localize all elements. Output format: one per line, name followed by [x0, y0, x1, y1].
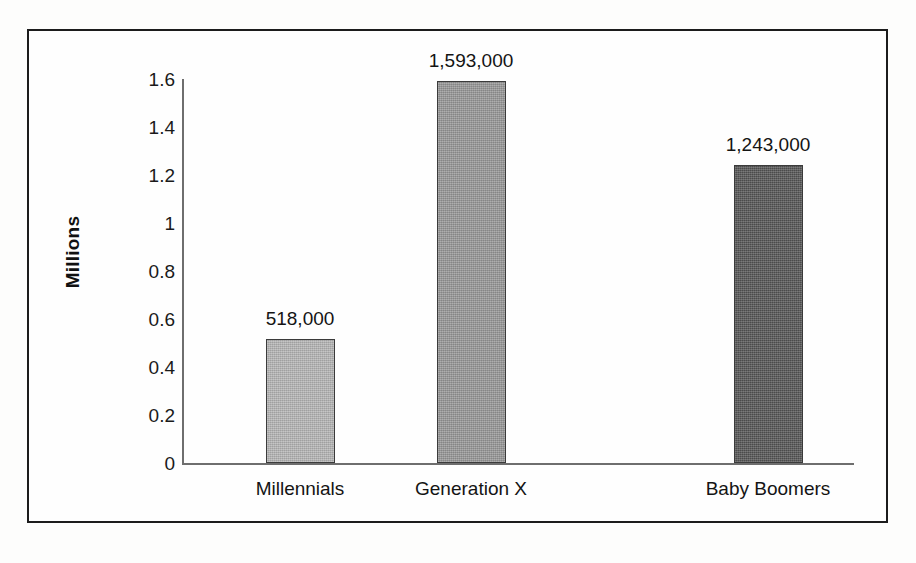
y-tick-label: 0.4: [55, 358, 175, 377]
bar-fill: [438, 82, 505, 462]
bar-generation-x: [437, 81, 506, 463]
y-tick-label: 1.6: [55, 70, 175, 89]
plot-area: Millions 1.6 1.4 1.2 1 0.8 0.6 0.4 0.2 0: [29, 31, 890, 525]
y-tick-label: 0.2: [55, 406, 175, 425]
y-tick-label: 1.4: [55, 118, 175, 137]
y-axis-line: [182, 79, 184, 465]
bar-fill: [735, 166, 802, 462]
y-tick-label: 1: [55, 214, 175, 233]
bar-baby-boomers: [734, 165, 803, 463]
y-tick-label: 0.8: [55, 262, 175, 281]
bar-value-label: 1,243,000: [678, 135, 858, 154]
bar-value-label: 518,000: [210, 309, 390, 328]
y-axis-tick-labels: 1.6 1.4 1.2 1 0.8 0.6 0.4 0.2 0: [39, 31, 175, 525]
bar-value-label: 1,593,000: [381, 51, 561, 70]
chart-page: Millions 1.6 1.4 1.2 1 0.8 0.6 0.4 0.2 0: [0, 0, 916, 563]
bar-millennials: [266, 339, 335, 463]
y-tick-label: 1.2: [55, 166, 175, 185]
x-axis-category-label: Baby Boomers: [658, 479, 878, 498]
y-tick-label: 0.6: [55, 310, 175, 329]
x-axis-category-label: Generation X: [361, 479, 581, 498]
x-axis-line: [182, 463, 854, 465]
y-tick-label: 0: [55, 454, 175, 473]
bar-fill: [267, 340, 334, 462]
chart-frame: Millions 1.6 1.4 1.2 1 0.8 0.6 0.4 0.2 0: [27, 29, 888, 523]
